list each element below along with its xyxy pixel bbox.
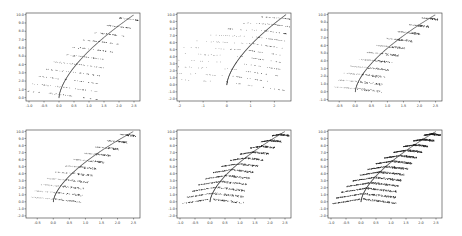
y-tick-label: 7.0	[169, 34, 174, 38]
axes-frame	[328, 130, 442, 218]
y-tick-label: 6.0	[320, 44, 325, 48]
y-tick-label: -1.0	[319, 98, 326, 102]
y-tick-label: 7.0	[169, 151, 174, 155]
y-tick-label: -2.0	[319, 214, 326, 218]
y-tick-label: 9.0	[320, 20, 325, 24]
chart-panel-top-left: -1.0-0.50.00.51.01.52.02.50.01.02.03.04.…	[6, 7, 150, 115]
x-tick-label: 2.5	[433, 221, 438, 225]
x-tick-label: 1.0	[237, 221, 242, 225]
y-tick-label: 1.0	[320, 193, 325, 197]
chart-panel-top-right: -0.50.00.51.01.52.02.5-1.00.01.02.03.04.…	[308, 7, 452, 115]
x-tick-label: 0.0	[207, 221, 212, 225]
y-tick-label: 10.0	[16, 130, 24, 134]
x-tick-label: 1	[250, 104, 252, 108]
y-tick-label: 4.0	[320, 59, 325, 63]
x-tick-label: 2.5	[131, 104, 136, 108]
y-tick-label: 5.0	[320, 51, 325, 55]
y-tick-label: 2.0	[169, 186, 174, 190]
chart-panel-bottom-right: -1.0-0.50.00.51.01.52.02.5-2.0-1.00.01.0…	[308, 124, 452, 232]
y-tick-label: -1.0	[319, 207, 326, 211]
y-tick-label: 1.0	[169, 193, 174, 197]
y-tick-label: 10.0	[167, 13, 175, 17]
x-tick-label: 1.5	[99, 221, 104, 225]
x-tick-label: 0.0	[56, 104, 61, 108]
x-tick-label: 2.0	[417, 104, 422, 108]
x-tick-label: 0.0	[358, 221, 363, 225]
x-tick-label: 1.0	[385, 104, 390, 108]
scatter-plot: -1.0-0.50.00.51.01.52.02.50.01.02.03.04.…	[6, 7, 150, 115]
x-tick-label: -0.5	[41, 104, 48, 108]
x-tick-label: 1.0	[83, 221, 88, 225]
y-tick-label: 9.0	[18, 21, 23, 25]
scatter-plot: -0.50.00.51.01.52.02.5-2.0-1.00.01.02.03…	[6, 124, 150, 232]
y-tick-label: -1.0	[17, 207, 24, 211]
y-tick-label: 10.0	[16, 13, 24, 17]
y-tick-label: 10.0	[167, 130, 175, 134]
y-tick-label: 2.0	[18, 186, 23, 190]
y-tick-label: 1.0	[18, 88, 23, 92]
x-tick-label: -0.5	[343, 221, 350, 225]
scatter-plot: -1.0-0.50.00.51.01.52.02.5-2.0-1.00.01.0…	[157, 124, 301, 232]
y-tick-label: 3.0	[169, 62, 174, 66]
y-tick-label: 9.0	[169, 20, 174, 24]
x-tick-label: 0.0	[51, 221, 56, 225]
y-tick-label: 1.0	[18, 193, 23, 197]
y-tick-label: 4.0	[18, 172, 23, 176]
x-tick-label: 2.5	[131, 221, 136, 225]
y-tick-label: 6.0	[18, 46, 23, 50]
y-tick-label: 3.0	[169, 179, 174, 183]
y-tick-label: 6.0	[169, 41, 174, 45]
y-tick-label: 7.0	[18, 38, 23, 42]
y-tick-label: 8.0	[320, 28, 325, 32]
chart-panel-top-center: -2-1012-2.0-1.00.01.02.03.04.05.06.07.08…	[157, 7, 301, 115]
x-tick-label: 0.0	[353, 104, 358, 108]
x-tick-label: 1.5	[101, 104, 106, 108]
x-tick-label: 1.0	[388, 221, 393, 225]
x-tick-label: 1.5	[403, 221, 408, 225]
scatter-plot: -0.50.00.51.01.52.02.5-1.00.01.02.03.04.…	[308, 7, 452, 115]
x-tick-label: 0.5	[71, 104, 76, 108]
scatter-plot: -2-1012-2.0-1.00.01.02.03.04.05.06.07.08…	[157, 7, 301, 115]
y-tick-label: 6.0	[169, 158, 174, 162]
y-tick-label: -2.0	[168, 214, 175, 218]
y-tick-label: 2.0	[169, 69, 174, 73]
y-tick-label: 10.0	[318, 130, 326, 134]
scatter-plot: -1.0-0.50.00.51.01.52.02.5-2.0-1.00.01.0…	[308, 124, 452, 232]
y-tick-label: 6.0	[18, 158, 23, 162]
y-tick-label: 2.0	[320, 74, 325, 78]
y-tick-label: 0.0	[169, 83, 174, 87]
y-tick-label: 0.0	[320, 200, 325, 204]
y-tick-label: 3.0	[320, 179, 325, 183]
x-tick-label: -1.0	[328, 221, 335, 225]
y-tick-label: 1.0	[169, 76, 174, 80]
y-tick-label: 5.0	[169, 165, 174, 169]
y-tick-label: 10.0	[318, 13, 326, 17]
x-tick-label: -0.5	[192, 221, 199, 225]
chart-panel-bottom-left: -0.50.00.51.01.52.02.5-2.0-1.00.01.02.03…	[6, 124, 150, 232]
y-tick-label: 0.0	[18, 200, 23, 204]
x-tick-label: -1	[201, 104, 204, 108]
axes-frame	[177, 130, 291, 218]
x-tick-label: 0	[226, 104, 228, 108]
x-tick-label: -1.0	[177, 221, 184, 225]
y-tick-label: 9.0	[320, 137, 325, 141]
y-tick-label: 2.0	[320, 186, 325, 190]
axes-frame	[177, 13, 291, 101]
y-tick-label: 8.0	[18, 29, 23, 33]
y-tick-label: 5.0	[169, 48, 174, 52]
y-tick-label: 1.0	[320, 82, 325, 86]
y-tick-label: 8.0	[18, 144, 23, 148]
chart-panel-bottom-center: -1.0-0.50.00.51.01.52.02.5-2.0-1.00.01.0…	[157, 124, 301, 232]
y-tick-label: 0.0	[169, 200, 174, 204]
y-tick-label: 8.0	[169, 144, 174, 148]
x-tick-label: -0.5	[34, 221, 41, 225]
y-tick-label: 5.0	[18, 165, 23, 169]
x-tick-label: 1.5	[252, 221, 257, 225]
y-tick-label: 3.0	[320, 67, 325, 71]
y-tick-label: 9.0	[18, 137, 23, 141]
x-tick-label: 0.5	[369, 104, 374, 108]
x-tick-label: 0.5	[222, 221, 227, 225]
y-tick-label: 8.0	[320, 144, 325, 148]
x-tick-label: -0.5	[336, 104, 343, 108]
y-tick-label: 2.0	[18, 79, 23, 83]
